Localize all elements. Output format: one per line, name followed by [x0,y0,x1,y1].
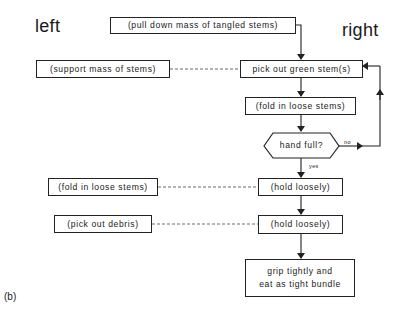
grip-line-2: eat as tight bundle [259,278,341,291]
right-header: right [342,20,379,41]
left-header: left [35,16,60,37]
node-pick-green: pick out green stem(s) [240,60,363,78]
node-support-mass: (support mass of stems) [36,60,170,78]
edge-label-no: no [344,139,351,145]
grip-line-1: grip tightly and [267,265,333,278]
node-hold-loosely-1: (hold loosely) [258,178,343,196]
node-hold-loosely-2: (hold loosely) [258,215,343,234]
node-fold-left: (fold in loose stems) [48,178,158,196]
node-pick-debris: (pick out debris) [54,215,152,233]
node-decision: hand full? [270,137,333,154]
node-fold-right: (fold in loose stems) [245,97,356,115]
node-pull-down: (pull down mass of tangled stems) [110,17,296,34]
figure-label: (b) [4,291,16,302]
node-grip-tightly: grip tightly and eat as tight bundle [245,259,355,297]
edge-label-yes: yes [309,163,319,169]
